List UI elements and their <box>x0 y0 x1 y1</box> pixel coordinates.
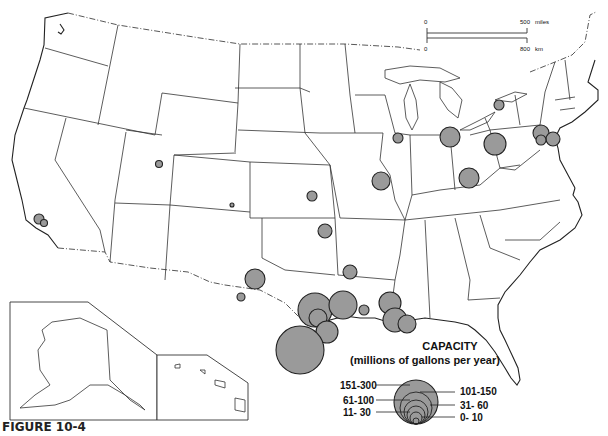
inset-frame <box>10 302 248 420</box>
scale-bar <box>427 28 527 43</box>
legend-class-11-30: 11- 30 <box>343 407 371 418</box>
legend-class-101-150: 101-150 <box>460 386 497 397</box>
atlantic-coast <box>555 60 598 188</box>
legend-class-31-60: 31- 60 <box>460 400 489 411</box>
lake-michigan <box>404 84 418 130</box>
lake-erie <box>460 112 495 130</box>
legend-circles <box>376 380 455 424</box>
scale-miles-unit: miles <box>535 19 549 25</box>
us-map: 0 500 miles 0 800 km 151-300 101-150 61-… <box>0 0 608 436</box>
scale-km-start: 0 <box>424 46 428 52</box>
legend-class-151-300: 151-300 <box>340 380 377 391</box>
legend-title: CAPACITY <box>350 340 550 352</box>
legend-class-0-10: 0- 10 <box>460 412 483 423</box>
state-borders <box>24 25 575 318</box>
hawaii-inset <box>157 355 248 420</box>
lake-huron <box>440 82 462 118</box>
west-coast <box>12 13 68 248</box>
figure-label: FIGURE 10-4 <box>2 420 86 434</box>
scale-miles-start: 0 <box>424 19 428 25</box>
lake-superior <box>385 66 460 84</box>
scale-km-unit: km <box>535 46 543 52</box>
scale-miles-end: 500 <box>520 19 531 25</box>
puget-sound <box>58 24 64 34</box>
canada-border <box>68 13 420 50</box>
scale-km-end: 800 <box>520 46 531 52</box>
legend-subtitle: (millions of gallons per year) <box>330 354 520 366</box>
legend-class-61-100: 61-100 <box>343 395 375 406</box>
